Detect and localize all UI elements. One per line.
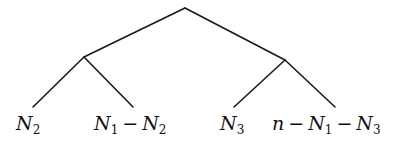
edge-root-right: [185, 8, 285, 60]
math-subscript: 2: [159, 123, 167, 137]
math-variable: N: [16, 112, 33, 134]
minus-operator: −: [332, 112, 356, 134]
math-variable: N: [308, 112, 325, 134]
edge-root-left: [84, 8, 185, 57]
leaf-label-4: n−N1−N3: [272, 114, 381, 136]
math-variable: N: [356, 112, 373, 134]
leaf-label-3: N3: [220, 114, 244, 136]
leaf-label-1: N2: [16, 114, 40, 136]
edge-left-leaf2: [84, 57, 133, 107]
math-subscript: 3: [373, 123, 381, 137]
minus-operator: −: [284, 112, 308, 134]
math-subscript: 3: [237, 123, 245, 137]
edge-left-leaf1: [33, 57, 84, 107]
leaf-label-2: N1−N2: [94, 114, 166, 136]
edge-right-leaf3: [234, 60, 285, 107]
math-variable: N: [142, 112, 159, 134]
math-subscript: 2: [33, 123, 41, 137]
math-variable: N: [94, 112, 111, 134]
math-variable: N: [220, 112, 237, 134]
edge-right-leaf4: [285, 60, 335, 107]
math-variable: n: [272, 112, 284, 134]
minus-operator: −: [118, 112, 142, 134]
